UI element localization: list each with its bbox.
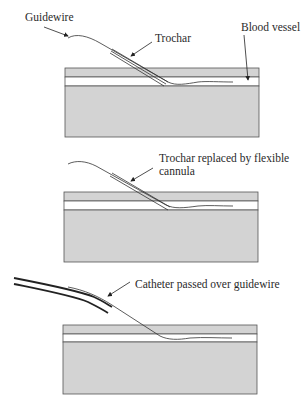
cannula-arrow: [131, 168, 153, 181]
guidewire-arrow: [44, 27, 68, 36]
trochar-arrow: [131, 42, 152, 56]
diagram-canvas: [0, 0, 307, 408]
panel-3-catheter: [14, 278, 257, 394]
panel-1-trochar-insertion: [44, 27, 259, 137]
catheter: [14, 278, 112, 313]
seldinger-technique-diagram: Guidewire Trochar Blood vessel Trochar r…: [0, 0, 307, 408]
trochar-label: Trochar: [155, 32, 191, 45]
blood-vessel-label: Blood vessel: [241, 21, 300, 34]
catheter-arrow: [108, 282, 130, 296]
tissue-block: [63, 325, 257, 394]
cannula-label-line2: cannula: [159, 165, 195, 178]
catheter-label: Catheter passed over guidewire: [135, 278, 280, 291]
cannula-label-line1: Trochar replaced by flexible: [159, 152, 289, 165]
guidewire-label: Guidewire: [25, 11, 74, 24]
